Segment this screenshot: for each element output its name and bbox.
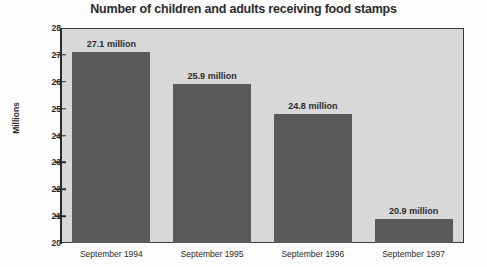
y-axis-tick-mark [55, 215, 66, 217]
bar-value-label: 27.1 million [87, 39, 136, 49]
y-axis-tick-mark [55, 189, 66, 191]
y-axis-title: Millions [11, 88, 21, 148]
y-axis-tick-mark [55, 135, 66, 137]
bar-value-label: 24.8 million [288, 101, 337, 111]
bar [375, 219, 453, 243]
bar-value-label: 20.9 million [389, 206, 438, 216]
bar-chart: Number of children and adults receiving … [0, 0, 487, 267]
y-axis-tick-mark [55, 81, 66, 83]
y-axis-tick-label: 20 [39, 238, 61, 248]
x-axis-category-label: September 1997 [382, 249, 445, 259]
x-axis-category-label: September 1996 [281, 249, 344, 259]
bar [274, 114, 352, 243]
y-axis-tick-mark [55, 54, 66, 56]
x-axis-category-label: September 1994 [80, 249, 143, 259]
bar [173, 84, 251, 243]
y-axis-tick-mark [55, 108, 66, 110]
y-axis-tick-mark [55, 162, 66, 164]
x-axis-category-label: September 1995 [181, 249, 244, 259]
bar [72, 52, 150, 243]
y-axis: Millions 282726252423222120 [0, 0, 61, 267]
y-axis-tick-label: 28 [39, 23, 61, 33]
bar-value-label: 25.9 million [188, 71, 237, 81]
chart-title: Number of children and adults receiving … [0, 2, 487, 16]
